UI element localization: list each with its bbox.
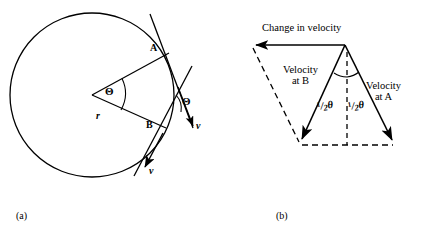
caption-panel-a: (a) bbox=[16, 210, 27, 221]
velocity-at-a-line2: at A bbox=[366, 91, 401, 102]
velocity-at-b-arrow bbox=[302, 45, 345, 139]
label-radius-r: r bbox=[96, 110, 100, 121]
radius-to-a bbox=[92, 53, 169, 95]
half-theta-right-arc bbox=[347, 72, 359, 77]
velocity-at-b-line2: at B bbox=[283, 75, 318, 86]
panel-a-graphics bbox=[10, 13, 193, 177]
tangent-line-at-b bbox=[134, 66, 192, 176]
center-angle-arc bbox=[121, 79, 125, 110]
physics-figure: A B r Θ Θ v v (a) Change in velocity Vel… bbox=[0, 0, 424, 240]
label-center-angle-theta: Θ bbox=[105, 86, 114, 97]
label-velocity-at-b: Velocity at B bbox=[283, 64, 318, 86]
label-tangent-angle-theta: Θ bbox=[182, 96, 191, 107]
label-velocity-a-v: v bbox=[196, 120, 200, 131]
velocity-at-b-line1: Velocity bbox=[283, 64, 318, 75]
label-change-in-velocity: Change in velocity bbox=[262, 22, 341, 33]
radius-to-b bbox=[92, 95, 166, 128]
velocity-at-a-line1: Velocity bbox=[366, 80, 401, 91]
tangent-angle-arc bbox=[176, 95, 181, 112]
figure-vector-graphics bbox=[0, 0, 424, 240]
label-velocity-at-a: Velocity at A bbox=[366, 80, 401, 102]
half-theta-left-arc bbox=[334, 73, 347, 77]
caption-panel-b: (b) bbox=[276, 210, 288, 221]
dashed-parallelogram-side bbox=[253, 48, 299, 142]
label-half-theta-right: 1/2θ bbox=[347, 98, 365, 115]
label-point-a: A bbox=[150, 42, 157, 53]
label-velocity-b-v: v bbox=[149, 165, 153, 176]
label-point-b: B bbox=[146, 119, 153, 130]
label-half-theta-left: 1/2θ bbox=[316, 98, 334, 115]
